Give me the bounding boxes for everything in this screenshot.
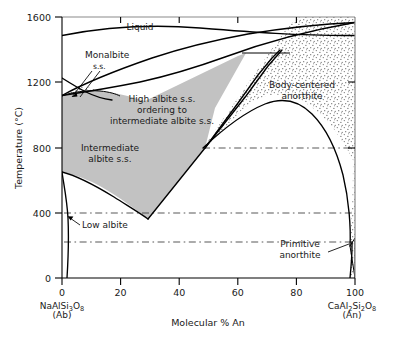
left-endmember-abbrev: (Ab): [53, 310, 72, 320]
label-body-centered-line1: Body-centered: [269, 80, 335, 90]
x-tick-label-0: 0: [59, 287, 65, 298]
label-monalbite-line1: Monalbite: [85, 50, 130, 60]
x-axis-title: Molecular % An: [171, 317, 245, 328]
label-high-albite-line3: intermediate albite s.s.: [110, 116, 214, 126]
label-high-albite-line1: High albite s.s.: [129, 94, 196, 104]
x-tick-label-40: 40: [173, 287, 185, 298]
label-intermediate-line1: Intermediate: [81, 143, 140, 153]
y-axis-title: Temperature (°C): [13, 107, 24, 190]
x-tick-label-100: 100: [346, 287, 364, 298]
phase-diagram-figure: 1600 1200 800 400 0 0 20 40 60 80 100 Te…: [0, 0, 393, 338]
label-monalbite-line2: s.s.: [93, 62, 106, 71]
label-primitive-line1: Primitive: [280, 239, 320, 249]
label-body-centered-line2: anorthite: [281, 91, 323, 101]
x-tick-label-60: 60: [232, 287, 244, 298]
y-tick-label-1600: 1600: [27, 12, 51, 23]
label-low-albite: Low albite: [82, 220, 128, 230]
y-tick-label-800: 800: [33, 143, 51, 154]
right-endmember-abbrev: (An): [343, 310, 362, 320]
label-primitive-line2: anorthite: [279, 250, 321, 260]
y-tick-label-0: 0: [45, 273, 51, 284]
label-liquid: Liquid: [126, 22, 153, 32]
x-tick-label-80: 80: [290, 287, 302, 298]
x-tick-label-20: 20: [115, 287, 127, 298]
y-tick-label-400: 400: [33, 208, 51, 219]
label-intermediate-line2: albite s.s.: [88, 154, 131, 164]
label-high-albite-line2: ordering to: [137, 105, 187, 115]
phase-diagram-svg: 1600 1200 800 400 0 0 20 40 60 80 100 Te…: [0, 0, 393, 338]
y-tick-label-1200: 1200: [27, 77, 51, 88]
